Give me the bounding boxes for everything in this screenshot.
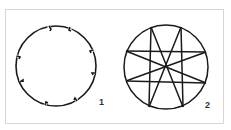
notched-circle bbox=[16, 26, 96, 106]
panel-2-label: 2 bbox=[205, 100, 210, 110]
star-circle bbox=[124, 25, 208, 109]
diagram-canvas bbox=[0, 0, 231, 130]
panel-1-label: 1 bbox=[99, 97, 104, 107]
